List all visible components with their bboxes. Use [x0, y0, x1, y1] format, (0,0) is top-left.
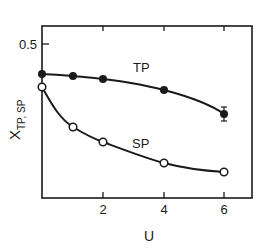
- x-tick-label: 6: [220, 202, 227, 217]
- tp-point: [160, 86, 168, 94]
- tp-point: [38, 70, 46, 78]
- sp-point: [160, 159, 168, 167]
- tp-series-label: TP: [133, 60, 150, 75]
- sp-point: [220, 168, 228, 176]
- sp-point: [99, 138, 107, 146]
- tp-curve: [42, 74, 224, 114]
- y-axis-label-subscript: TP, SP: [16, 99, 27, 130]
- chart: 0.5 2 4 6 U X TP, SP TP SP: [0, 0, 268, 251]
- tp-point: [69, 72, 77, 80]
- x-tick-label: 2: [99, 202, 106, 217]
- sp-point: [69, 123, 77, 131]
- x-tick-label: 4: [160, 202, 167, 217]
- sp-series-label: SP: [132, 136, 149, 151]
- y-tick-label: 0.5: [19, 37, 37, 52]
- y-axis-label-main: X: [6, 130, 23, 140]
- sp-point: [38, 83, 46, 91]
- tp-point: [220, 110, 228, 118]
- tp-point: [99, 75, 107, 83]
- x-axis-label: U: [144, 228, 154, 244]
- y-axis-label: X TP, SP: [6, 99, 27, 140]
